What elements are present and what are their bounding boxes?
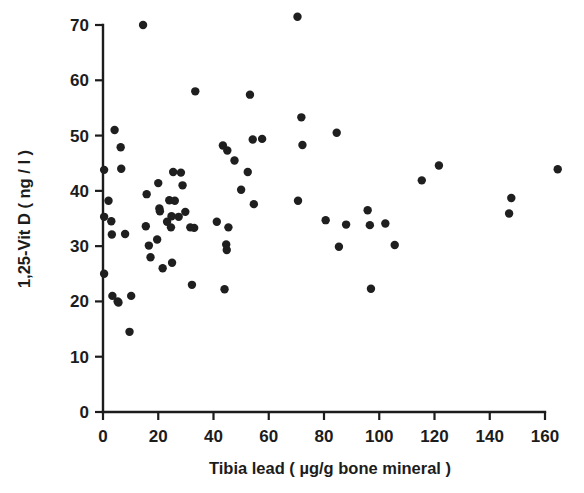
data-point: [294, 197, 302, 205]
data-point: [121, 230, 129, 238]
data-point: [181, 208, 189, 216]
data-point: [108, 230, 116, 238]
data-point: [435, 161, 443, 169]
data-point: [171, 197, 179, 205]
y-axis-ticks: 010203040506070: [70, 16, 103, 422]
data-point: [190, 224, 198, 232]
y-tick-label: 50: [70, 127, 89, 146]
x-tick-label: 40: [204, 427, 223, 446]
data-point: [321, 216, 329, 224]
data-point: [249, 135, 257, 143]
data-point: [167, 223, 175, 231]
data-point: [418, 176, 426, 184]
data-point: [188, 281, 196, 289]
data-point: [224, 223, 232, 231]
scatter-plot-figure: 010203040506070 020406080100120140160 Ti…: [0, 0, 584, 493]
data-point: [139, 21, 147, 29]
data-point: [100, 270, 108, 278]
data-point: [142, 222, 150, 230]
data-point: [116, 143, 124, 151]
data-point: [297, 113, 305, 121]
data-point: [366, 221, 374, 229]
data-point: [169, 168, 177, 176]
y-tick-label: 70: [70, 16, 89, 35]
y-tick-label: 10: [70, 348, 89, 367]
data-point: [107, 217, 115, 225]
y-tick-label: 60: [70, 71, 89, 90]
x-axis-ticks: 020406080100120140160: [98, 412, 559, 446]
data-point: [230, 156, 238, 164]
data-point: [156, 207, 164, 215]
y-tick-label: 20: [70, 292, 89, 311]
x-tick-label: 60: [259, 427, 278, 446]
x-tick-label: 140: [476, 427, 504, 446]
x-tick-label: 160: [531, 427, 559, 446]
y-tick-label: 0: [80, 403, 89, 422]
data-point: [167, 212, 175, 220]
x-tick-label: 20: [149, 427, 168, 446]
data-point: [114, 298, 122, 306]
data-point: [507, 194, 515, 202]
x-tick-label: 120: [420, 427, 448, 446]
data-point: [391, 241, 399, 249]
data-point: [142, 190, 150, 198]
data-point: [223, 246, 231, 254]
data-point: [223, 146, 231, 154]
data-point: [178, 181, 186, 189]
data-point: [293, 13, 301, 21]
data-point: [258, 135, 266, 143]
data-point: [298, 141, 306, 149]
data-point-group: [100, 13, 562, 337]
data-point: [127, 292, 135, 300]
data-point: [117, 165, 125, 173]
data-point: [146, 253, 154, 261]
data-point: [158, 264, 166, 272]
data-point: [220, 285, 228, 293]
data-point: [104, 197, 112, 205]
x-tick-label: 100: [365, 427, 393, 446]
y-tick-label: 40: [70, 182, 89, 201]
data-point: [363, 206, 371, 214]
data-point: [154, 179, 162, 187]
data-point: [125, 328, 133, 336]
plot-canvas: 010203040506070 020406080100120140160 Ti…: [0, 0, 584, 493]
data-point: [100, 213, 108, 221]
data-point: [381, 219, 389, 227]
data-point: [168, 259, 176, 267]
x-axis-title: Tibia lead ( µg/g bone mineral ): [209, 459, 451, 477]
data-point: [110, 126, 118, 134]
data-point: [342, 220, 350, 228]
data-point: [250, 200, 258, 208]
data-point: [367, 285, 375, 293]
data-point: [237, 186, 245, 194]
data-point: [333, 129, 341, 137]
data-point: [244, 168, 252, 176]
data-point: [100, 166, 108, 174]
data-point: [213, 218, 221, 226]
x-tick-label: 80: [315, 427, 334, 446]
data-point: [554, 165, 562, 173]
data-point: [246, 90, 254, 98]
data-point: [335, 243, 343, 251]
y-axis-title: 1,25-Vit D ( ng / l ): [15, 150, 33, 288]
data-point: [174, 213, 182, 221]
data-point: [145, 241, 153, 249]
y-tick-label: 30: [70, 237, 89, 256]
data-point: [191, 87, 199, 95]
data-point: [177, 168, 185, 176]
data-point: [505, 209, 513, 217]
x-tick-label: 0: [98, 427, 107, 446]
data-point: [153, 235, 161, 243]
